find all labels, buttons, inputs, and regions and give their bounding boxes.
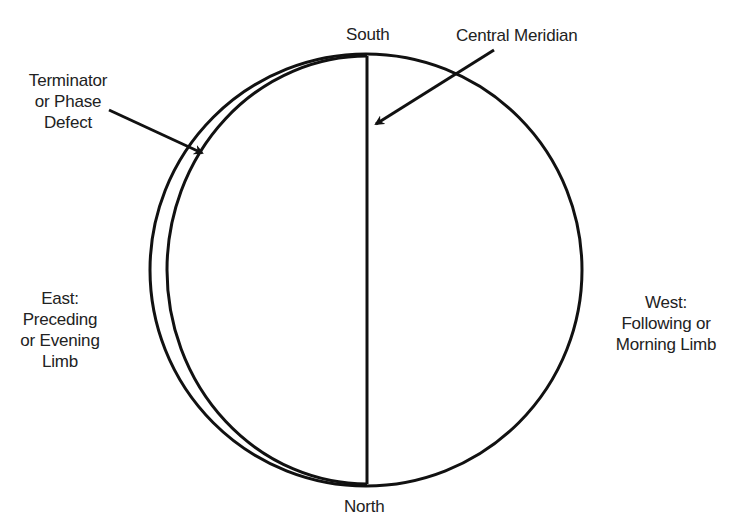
terminator-arc: [167, 56, 367, 484]
terminator-label-line-3: Defect: [22, 112, 114, 133]
central-meridian-label: Central Meridian: [456, 25, 578, 46]
south-label: South: [346, 24, 389, 45]
east-label-line-3: or Evening: [20, 330, 100, 351]
north-label: North: [344, 496, 385, 517]
terminator-label-line-2: or Phase: [22, 91, 114, 112]
terminator-label-line-1: Terminator: [22, 70, 114, 91]
terminator-label: Terminator or Phase Defect: [22, 70, 114, 133]
east-label-line-2: Preceding: [20, 309, 100, 330]
west-label-line-3: Morning Limb: [606, 334, 726, 355]
east-label-line-1: East:: [20, 288, 100, 309]
east-label-line-4: Limb: [20, 351, 100, 372]
west-label-line-2: Following or: [606, 313, 726, 334]
terminator-arrow: [109, 110, 202, 153]
central-meridian-arrow: [376, 50, 494, 124]
west-label-line-1: West:: [606, 292, 726, 313]
west-limb-label: West: Following or Morning Limb: [606, 292, 726, 355]
east-limb-label: East: Preceding or Evening Limb: [20, 288, 100, 372]
